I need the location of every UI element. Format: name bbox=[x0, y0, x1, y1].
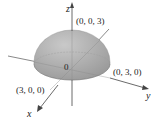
y-point-label: (0, 3, 0) bbox=[113, 67, 142, 77]
y-axis bbox=[110, 78, 145, 88]
origin-label: 0 bbox=[64, 62, 69, 72]
hemisphere-diagram: z y x (0, 0, 3) (0, 3, 0) (3, 0, 0) 0 bbox=[0, 0, 163, 123]
x-arrow-icon bbox=[37, 105, 43, 112]
z-arrow-icon bbox=[70, 2, 74, 8]
y-label: y bbox=[145, 90, 151, 101]
x-point-label: (3, 0, 0) bbox=[16, 85, 45, 95]
x-label: x bbox=[26, 108, 32, 119]
top-point-label: (0, 0, 3) bbox=[76, 16, 105, 26]
z-label: z bbox=[65, 3, 70, 14]
